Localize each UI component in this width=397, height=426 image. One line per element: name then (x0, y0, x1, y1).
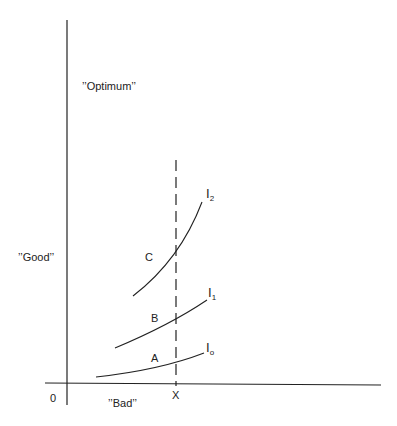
label-region-b: B (151, 313, 158, 324)
label-x-marker: X (172, 390, 179, 401)
label-curve-i1: I1 (208, 286, 216, 299)
curve-i2 (133, 202, 202, 296)
diagram-canvas (0, 0, 397, 426)
label-good: ’’Good’’ (18, 252, 54, 263)
label-curve-i2: I2 (206, 187, 214, 200)
label-region-c: C (145, 252, 153, 263)
curve-i0 (96, 353, 204, 377)
label-bad: ’’Bad’’ (108, 398, 137, 409)
x-axis (45, 383, 381, 385)
label-optimum: ’’Optimum’’ (82, 81, 136, 92)
curve-i1 (115, 300, 207, 348)
label-region-a: A (151, 353, 158, 364)
label-origin: 0 (50, 393, 56, 404)
label-curve-i0: Io (206, 341, 214, 354)
